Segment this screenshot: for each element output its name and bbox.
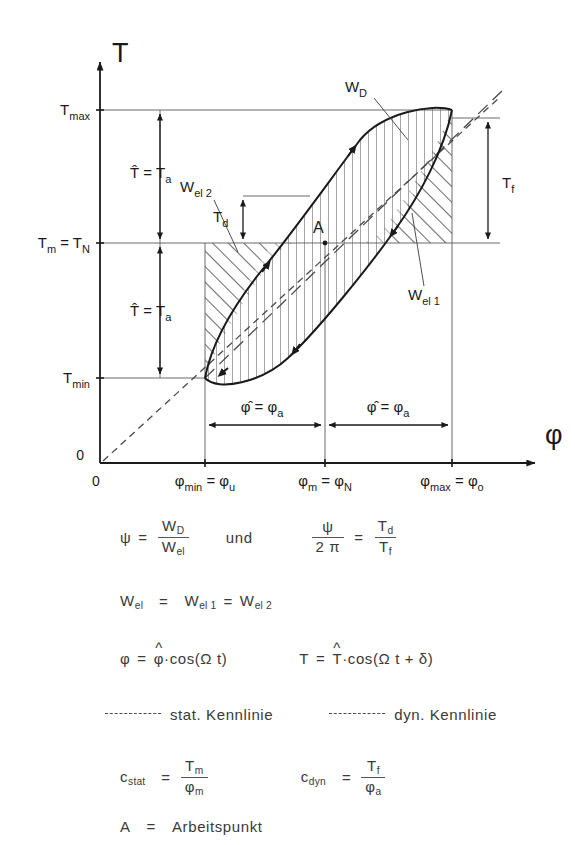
fraction-numerator: Td	[374, 518, 398, 537]
c-dyn-term: cdyn	[301, 768, 326, 787]
dimension-label-t-hat-upper: T̂ = Ta	[130, 164, 172, 185]
annotation-w-el2: Wel 2	[180, 178, 212, 199]
arbeitspunkt-text: Arbeitspunkt	[172, 818, 263, 835]
fraction-numerator: WD	[158, 518, 188, 537]
dynamic-characteristic-line	[205, 88, 505, 378]
x-tick-label-phim: φm = φN	[298, 472, 352, 493]
formula-row-stiffness: cstat = Tm φm cdyn = Tf φa	[120, 758, 388, 798]
fraction-td-tf: Td Tf	[374, 518, 398, 558]
dynamic-line-sample	[329, 713, 385, 714]
equals-sign: =	[138, 529, 147, 546]
x-tick-label-phimin: φmin = φu	[175, 472, 235, 493]
psi-symbol: ψ	[120, 529, 131, 546]
a-symbol: A	[120, 818, 131, 835]
legend-label-dynamic: dyn. Kennlinie	[394, 706, 497, 723]
formula-row-cosine: φ = φ ·cos(Ω t) T = T ·cos(Ω t + δ)	[120, 650, 433, 667]
operating-point-marker	[323, 241, 328, 246]
cos-omega-t: ·cos(Ω t)	[164, 650, 227, 667]
y-tick-label-tmax: Tmax	[60, 101, 90, 122]
formula-row-wel: Wel = Wel 1 = Wel 2	[120, 592, 272, 611]
fraction-denominator: φm	[181, 777, 208, 797]
dimension-label-phi-hat-right: φ̂ = φa	[367, 398, 411, 419]
c-stat-term: cstat	[120, 768, 145, 787]
fraction-denominator: Wel	[158, 537, 189, 557]
annotation-w-el1: Wel 1	[408, 286, 440, 307]
legend-row: stat. Kennlinie dyn. Kennlinie	[105, 706, 497, 723]
fraction-denominator: Tf	[375, 537, 396, 557]
diagram-page: T φ 0 0 Tmax Tm = TN Tmin φmin = φu φm =…	[0, 0, 575, 845]
dimension-label-t-hat-lower: T̂ = Ta	[130, 302, 172, 323]
und-conjunction: und	[226, 529, 253, 546]
static-characteristic-line	[103, 97, 500, 461]
equals-sign: =	[161, 769, 170, 786]
fraction-numerator: ψ	[318, 519, 337, 537]
fraction-tm-phim: Tm φm	[181, 758, 208, 798]
fraction-psi-2pi: ψ 2 π	[312, 519, 345, 556]
dimension-label-t-f: Tf	[502, 174, 515, 195]
equals-sign: =	[316, 650, 325, 667]
diagram-canvas: T φ 0 0 Tmax Tm = TN Tmin φmin = φu φm =…	[0, 0, 575, 500]
fraction-numerator: Tm	[181, 758, 207, 777]
equals-sign: =	[223, 593, 232, 610]
legend-label-static: stat. Kennlinie	[170, 706, 273, 723]
fraction-wd-wel: WD Wel	[158, 518, 189, 558]
equals-sign: =	[159, 593, 168, 610]
t-hat-symbol: T	[332, 650, 342, 667]
origin-label-y: 0	[76, 447, 84, 463]
wel-term: Wel	[120, 592, 143, 611]
fraction-tf-phia: Tf φa	[361, 758, 385, 798]
y-tick-label-tmin: Tmin	[63, 369, 90, 390]
formula-block: ψ = WD Wel und ψ 2 π = Td Tf	[0, 500, 575, 845]
dimension-label-t-d: Td	[213, 208, 228, 229]
phi-hat-symbol: φ	[154, 650, 164, 667]
formula-row-psi: ψ = WD Wel und ψ 2 π = Td Tf	[120, 518, 400, 558]
equals-sign: =	[137, 650, 146, 667]
fraction-numerator: Tf	[363, 758, 384, 777]
x-tick-label-phimax: φmax = φo	[420, 472, 483, 493]
static-line-sample	[105, 713, 161, 714]
fraction-denominator: φa	[361, 777, 385, 797]
y-axis-label: T	[112, 38, 129, 68]
equals-sign: =	[342, 769, 351, 786]
cos-omega-t-delta: ·cos(Ω t + δ)	[342, 650, 433, 667]
equals-sign: =	[354, 529, 363, 546]
wel1-term: Wel 1	[184, 592, 216, 611]
wel2-term: Wel 2	[240, 592, 272, 611]
dimension-label-phi-hat-left: φ̂ = φa	[241, 398, 285, 419]
y-tick-label-tm: Tm = TN	[38, 234, 90, 255]
x-axis-label: φ	[545, 420, 563, 450]
annotation-w-d: WD	[345, 78, 367, 99]
fraction-denominator: 2 π	[312, 537, 345, 556]
equals-sign: =	[147, 818, 156, 835]
hysteresis-diagram: T φ 0 0 Tmax Tm = TN Tmin φmin = φu φm =…	[0, 0, 575, 500]
torque-symbol: T	[299, 650, 309, 667]
formula-row-arbeitspunkt: A = Arbeitspunkt	[120, 818, 263, 835]
origin-label-x: 0	[92, 473, 100, 489]
phi-symbol: φ	[120, 650, 130, 667]
annotation-operating-point: A	[313, 219, 324, 236]
